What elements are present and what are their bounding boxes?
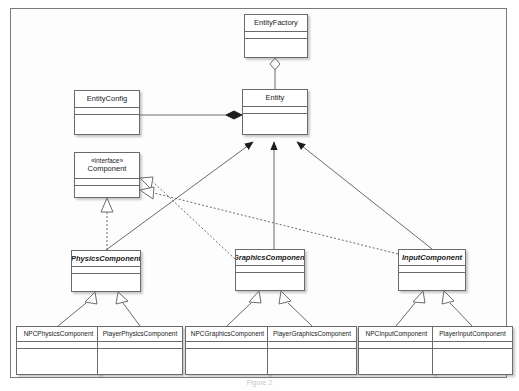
attributes-compartment xyxy=(243,107,307,114)
attributes-compartment xyxy=(17,342,100,349)
edge-inputcomponent-entity xyxy=(297,142,432,249)
operations-compartment xyxy=(17,349,100,376)
class-box-playergraphicscomponent[interactable]: PlayerGraphicsComponent xyxy=(267,326,357,375)
hollow-triangle-graphics-npc xyxy=(249,291,261,303)
hollow-triangle-component-input xyxy=(140,187,154,199)
attributes-compartment xyxy=(399,266,465,273)
operations-compartment xyxy=(72,274,140,293)
hollow-triangle-physics-player xyxy=(116,292,128,304)
operations-compartment xyxy=(243,114,307,134)
hollow-triangle-component-physics xyxy=(101,198,113,212)
edge-inputcomponent-component xyxy=(154,193,398,254)
class-name-graphicscomponent: GraphicsComponent xyxy=(236,250,304,266)
class-box-graphicscomponent[interactable]: GraphicsComponent xyxy=(235,249,305,291)
class-box-inputcomponent[interactable]: InputComponent xyxy=(398,249,466,291)
filled-diamond-entity xyxy=(226,111,242,119)
operations-compartment xyxy=(236,273,304,292)
operations-compartment xyxy=(186,349,269,376)
attributes-compartment xyxy=(75,108,139,115)
edge-playerinputcomponent-inputcomponent xyxy=(450,303,472,326)
class-header-component: «interface» Component xyxy=(75,153,139,179)
edge-playergraphicscomponent-graphicscomponent xyxy=(288,303,312,326)
operations-compartment xyxy=(75,115,139,135)
edge-npcgraphicscomponent-graphicscomponent xyxy=(227,303,251,326)
hollow-triangle-physics-npc xyxy=(85,292,97,304)
class-name-inputcomponent: InputComponent xyxy=(399,250,465,266)
class-box-playerinputcomponent[interactable]: PlayerInputComponent xyxy=(432,326,513,375)
class-name-playerphysicscomponent: PlayerPhysicsComponent xyxy=(98,327,182,342)
attributes-compartment xyxy=(98,342,182,349)
class-box-component[interactable]: «interface» Component xyxy=(74,152,140,198)
class-name-entity: Entity xyxy=(243,90,307,107)
hollow-triangle-input-npc xyxy=(413,291,425,303)
hollow-triangle-graphics-player xyxy=(279,291,291,304)
hollow-triangle-input-player xyxy=(442,291,454,304)
attributes-compartment xyxy=(186,342,269,349)
operations-compartment xyxy=(433,349,512,376)
attributes-compartment xyxy=(236,266,304,273)
diagram-canvas: EntityFactory EntityConfig Entity «inter… xyxy=(0,0,519,391)
attributes-compartment xyxy=(268,342,356,349)
operations-compartment xyxy=(75,186,139,199)
class-box-playerphysicscomponent[interactable]: PlayerPhysicsComponent xyxy=(97,326,183,375)
class-box-entityconfig[interactable]: EntityConfig xyxy=(74,90,140,135)
edge-graphicscomponent-component xyxy=(153,182,235,259)
attributes-compartment xyxy=(433,342,512,349)
attributes-compartment xyxy=(245,32,307,39)
class-box-physicscomponent[interactable]: PhysicsComponent xyxy=(71,250,141,292)
operations-compartment xyxy=(245,39,307,59)
edge-npcphysicscomponent-physicscomponent xyxy=(58,303,86,326)
class-name-physicscomponent: PhysicsComponent xyxy=(72,251,140,267)
class-name-npcphysicscomponent: NPCPhysicsComponent xyxy=(17,327,100,342)
class-name-entityfactory: EntityFactory xyxy=(245,15,307,32)
edge-npcinputcomponent-inputcomponent xyxy=(396,303,415,326)
class-box-npcphysicscomponent[interactable]: NPCPhysicsComponent xyxy=(16,326,101,375)
operations-compartment xyxy=(98,349,182,376)
attributes-compartment xyxy=(359,342,434,349)
figure-caption: Figure 2 xyxy=(0,379,519,386)
class-box-npcinputcomponent[interactable]: NPCInputComponent xyxy=(358,326,435,375)
operations-compartment xyxy=(359,349,434,376)
class-box-npcgraphicscomponent[interactable]: NPCGraphicsComponent xyxy=(185,326,270,375)
class-name-npcinputcomponent: NPCInputComponent xyxy=(359,327,434,342)
operations-compartment xyxy=(399,273,465,292)
operations-compartment xyxy=(268,349,356,376)
edge-playerphysicscomponent-physicscomponent xyxy=(123,303,140,326)
attributes-compartment xyxy=(72,267,140,274)
class-name-component: Component xyxy=(88,165,127,173)
class-name-playergraphicscomponent: PlayerGraphicsComponent xyxy=(268,327,356,342)
hollow-diamond-entityfactory xyxy=(270,58,280,70)
class-name-entityconfig: EntityConfig xyxy=(75,91,139,108)
class-box-entityfactory[interactable]: EntityFactory xyxy=(244,14,308,58)
class-name-playerinputcomponent: PlayerInputComponent xyxy=(433,327,512,342)
attributes-compartment xyxy=(75,179,139,186)
class-box-entity[interactable]: Entity xyxy=(242,89,308,135)
class-name-npcgraphicscomponent: NPCGraphicsComponent xyxy=(186,327,269,342)
